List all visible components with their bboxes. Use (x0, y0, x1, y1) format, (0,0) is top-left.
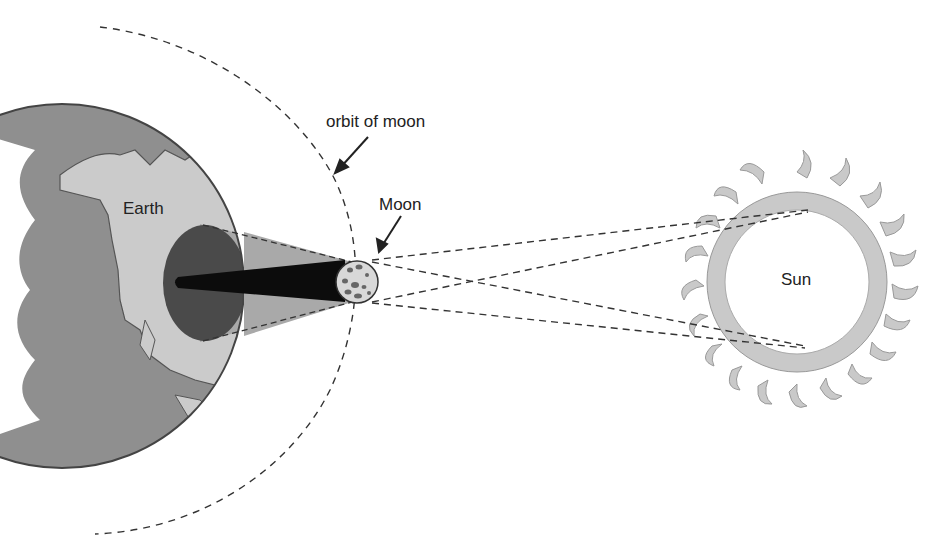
moon (336, 261, 378, 303)
earth-label: Earth (123, 199, 164, 218)
orbit-label: orbit of moon (326, 112, 425, 131)
moon-label: Moon (379, 195, 422, 214)
eclipse-diagram: orbit of moon Moon Earth Sun (0, 0, 926, 539)
moon-arrow (377, 216, 401, 252)
sun-label: Sun (781, 270, 811, 289)
orbit-arrow (335, 137, 368, 173)
